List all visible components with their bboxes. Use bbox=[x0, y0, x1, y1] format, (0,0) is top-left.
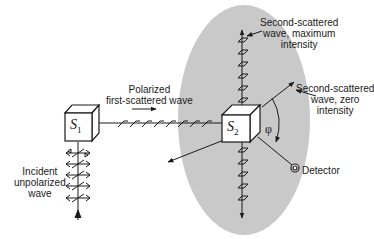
zero-intensity-label: Second-scattered wave, zero intensity bbox=[296, 83, 374, 116]
detector-label: Detector bbox=[302, 165, 340, 176]
incident-wave bbox=[66, 142, 90, 220]
detector-icon bbox=[291, 164, 299, 172]
phi-label: φ bbox=[265, 124, 272, 135]
incident-label: Incident unpolarized wave bbox=[14, 166, 66, 199]
polarized-label: Polarized first-scattered wave bbox=[106, 84, 193, 106]
s2-label: S2 bbox=[227, 119, 239, 137]
max-intensity-label: Second-scattered wave, maximum intensity bbox=[260, 17, 338, 50]
s1-label: S1 bbox=[70, 117, 82, 135]
